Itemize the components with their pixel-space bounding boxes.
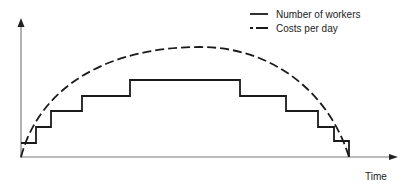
x-axis-arrow-icon	[389, 154, 398, 160]
legend-label-workers: Number of workers	[276, 9, 360, 20]
legend: Number of workers Costs per day	[250, 9, 360, 34]
x-axis-label: Time	[365, 171, 387, 182]
y-axis-arrow-icon	[18, 18, 25, 27]
number-of-workers-line	[21, 80, 349, 157]
costs-per-day-curve	[21, 47, 349, 157]
workers-costs-chart: Number of workers Costs per day Time	[0, 0, 412, 188]
legend-label-costs: Costs per day	[276, 23, 338, 34]
